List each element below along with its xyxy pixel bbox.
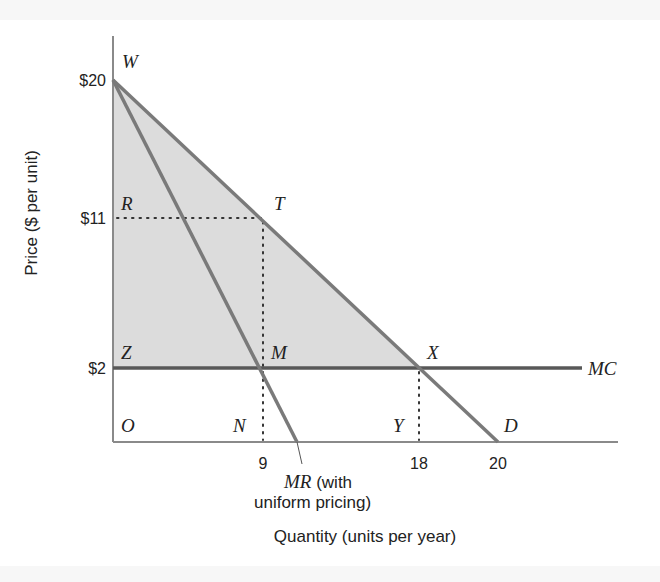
y-axis-title: Price ($ per unit) — [22, 150, 41, 276]
y-tick-2: $2 — [88, 360, 106, 377]
label-d: D — [503, 415, 518, 436]
label-z: Z — [121, 342, 132, 363]
x-tick-18: 18 — [410, 455, 428, 472]
chart: $20 $11 $2 9 18 20 W R T Z M X O N Y D M… — [0, 0, 660, 582]
mr-leader-line — [297, 442, 302, 464]
y-tick-20: $20 — [79, 72, 106, 89]
x-tick-20: 20 — [489, 455, 507, 472]
mr-label: MR — [283, 471, 312, 492]
label-w: W — [122, 51, 140, 72]
x-tick-9: 9 — [259, 455, 268, 472]
mr-annotation: MR (with — [283, 471, 352, 492]
label-r: R — [120, 193, 133, 214]
label-x: X — [426, 342, 440, 363]
mr-with-label: (with — [311, 473, 352, 492]
label-t: T — [274, 193, 286, 214]
label-n: N — [232, 415, 247, 436]
x-axis-title: Quantity (units per year) — [274, 527, 456, 546]
label-o: O — [121, 415, 135, 436]
label-m: M — [270, 342, 288, 363]
label-y: Y — [393, 415, 406, 436]
mr-uniform-label: uniform pricing) — [254, 493, 371, 512]
y-tick-11: $11 — [80, 210, 106, 227]
label-mc: MC — [587, 358, 617, 379]
